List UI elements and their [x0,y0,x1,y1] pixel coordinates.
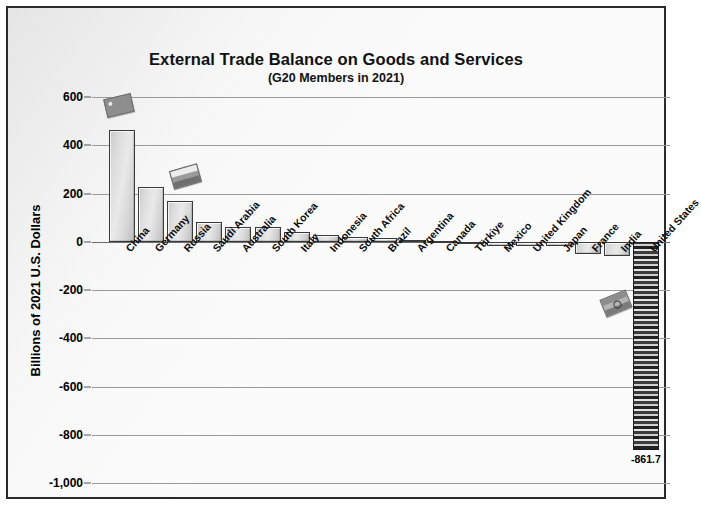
y-axis-label: Billions of 2021 U.S. Dollars [26,97,46,483]
gridline-600 [92,97,670,98]
bar-china [109,130,135,242]
y-tick-label--1000: -1,000 [49,476,83,490]
india-flag-sticker [599,289,632,317]
russia-flag-sticker [169,164,202,190]
value-label-united-states: -861.7 [619,453,661,465]
y-tick-mark-0 [84,241,91,242]
chart-frame: External Trade Balance on Goods and Serv… [6,6,666,499]
category-label-united-states: United States [647,196,701,254]
chart-subtitle: (G20 Members in 2021) [8,71,664,85]
y-tick-label--200: -200 [59,283,83,297]
y-tick-label--400: -400 [59,331,83,345]
y-tick-mark--400 [84,338,91,339]
gridline--1000 [92,483,670,484]
gridline-400 [92,145,670,146]
plot-area: 6004002000-200-400-600-800-1,000 -861.7 … [92,97,670,483]
y-tick-label-200: 200 [63,187,83,201]
y-tick-mark--800 [84,434,91,435]
y-tick-label-0: 0 [76,235,83,249]
y-tick-label-600: 600 [63,90,83,104]
y-tick-mark--200 [84,290,91,291]
y-tick-mark--1000 [84,483,91,484]
y-tick-mark--600 [84,386,91,387]
bar-united-states [633,242,659,450]
category-label-mexico: Mexico [501,219,534,253]
y-tick-label--800: -800 [59,428,83,442]
y-tick-mark-600 [84,97,91,98]
chart-title: External Trade Balance on Goods and Serv… [8,50,664,69]
y-tick-mark-200 [84,193,91,194]
y-axis-label-text: Billions of 2021 U.S. Dollars [29,204,44,376]
gridline--600 [92,387,670,388]
gridline--400 [92,338,670,339]
gridline--800 [92,435,670,436]
gridline--200 [92,290,670,291]
y-tick-label-400: 400 [63,138,83,152]
category-label-t-rkiye: Türkiye [472,218,506,254]
y-tick-mark-400 [84,145,91,146]
y-tick-label--600: -600 [59,380,83,394]
